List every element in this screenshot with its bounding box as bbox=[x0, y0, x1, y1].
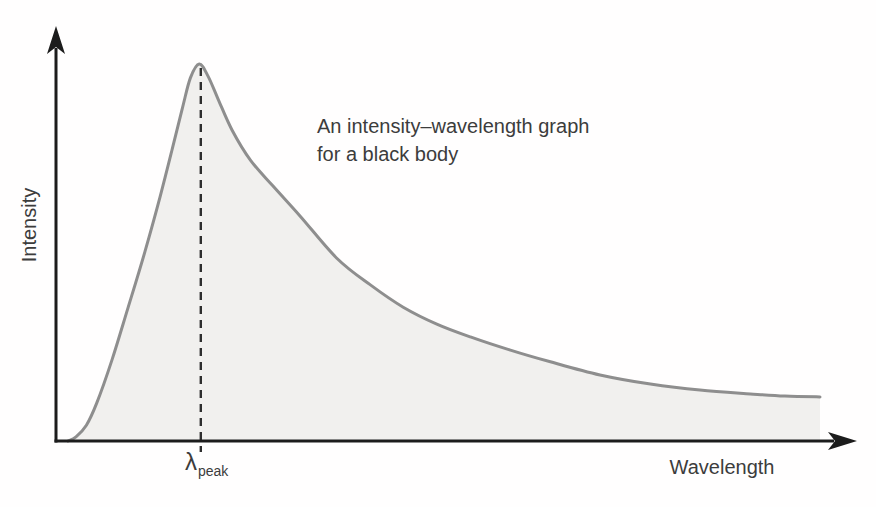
blackbody-intensity-wavelength-figure: Intensity An intensity–wavelength graph … bbox=[0, 0, 876, 507]
x-axis-label: Wavelength bbox=[670, 456, 775, 479]
chart-annotation-line2: for a black body bbox=[317, 140, 589, 168]
lambda-symbol: λ bbox=[185, 448, 197, 475]
chart-annotation-line1: An intensity–wavelength graph bbox=[317, 112, 589, 140]
peak-subscript: peak bbox=[198, 463, 228, 479]
chart-canvas bbox=[0, 0, 876, 507]
peak-wavelength-label: λpeak bbox=[185, 448, 227, 476]
y-axis-label: Intensity bbox=[18, 188, 41, 262]
chart-annotation: An intensity–wavelength graph for a blac… bbox=[317, 112, 589, 168]
